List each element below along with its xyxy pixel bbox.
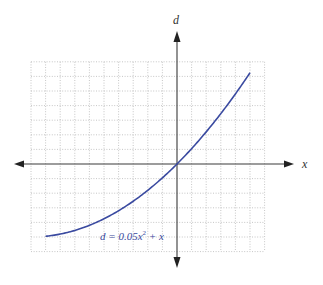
curve-d-equals-0.05x2-plus-x [46,73,250,237]
y-axis-down-arrow-icon [174,257,181,268]
x-axis-right-arrow-icon [284,161,294,168]
grid [31,62,265,252]
y-axis-label: d [173,13,180,27]
chart: x d d = 0.05x2 + x [0,0,323,285]
x-axis-label: x [301,157,308,171]
y-axis-up-arrow-icon [174,31,181,42]
x-axis-left-arrow-icon [14,161,24,168]
equation-label: d = 0.05x2 + x [100,229,164,242]
